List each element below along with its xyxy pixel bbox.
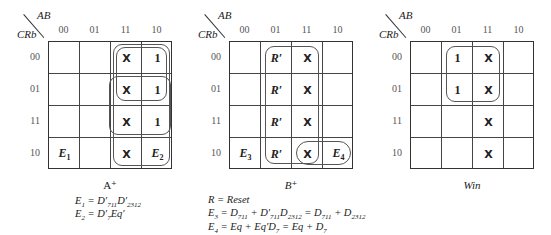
equation-r: R = Reset	[208, 194, 250, 205]
cell-r3-c1	[442, 138, 473, 170]
cell-r3-c2: X	[473, 138, 504, 170]
cell-r1-c0	[411, 74, 442, 106]
map-caption: A⁺	[48, 179, 172, 192]
col-label-10: 10	[503, 24, 534, 35]
cell-r2-c1	[442, 106, 473, 138]
row-label-01: 01	[382, 83, 402, 94]
row-label-11: 11	[382, 115, 402, 126]
cell-r3-c1	[80, 138, 111, 170]
kmap-win: AB CRb 00 01 11 10 00 01 11 10 1 X 1 X X…	[362, 0, 542, 190]
row-label-00: 00	[201, 51, 221, 62]
row-variable-label: CRb	[17, 28, 37, 40]
col-label-11: 11	[110, 24, 141, 35]
cell-r2-c0	[411, 106, 442, 138]
row-label-01: 01	[201, 83, 221, 94]
col-label-00: 00	[48, 24, 79, 35]
group-loop-middle	[109, 76, 171, 135]
kmap-a: AB CRb 00 01 11 10 00 01 11 10 X 1 X 1 X…	[0, 0, 180, 190]
cell-r1-c3	[504, 74, 535, 106]
row-label-11: 11	[201, 115, 221, 126]
row-label-11: 11	[20, 115, 40, 126]
cell-r0-c0	[49, 42, 80, 74]
cell-r0-c1	[80, 42, 111, 74]
equation-e2: E2 = D′7Eq′	[75, 208, 125, 222]
cell-r2-c2: X	[473, 106, 504, 138]
equation-e3: E3 = D711 + D′711D2312 = D711 + D2312	[208, 207, 365, 221]
equation-e1: E1 = D′711D′2312	[75, 195, 141, 209]
cell-r2-c0	[49, 106, 80, 138]
row-label-01: 01	[20, 83, 40, 94]
row-variable-label: CRb	[198, 28, 218, 40]
row-label-00: 00	[20, 51, 40, 62]
row-label-10: 10	[382, 147, 402, 158]
cell-r0-c0	[411, 42, 442, 74]
cell-r3-c0: E3	[230, 138, 261, 170]
column-variable-label: AB	[218, 9, 231, 21]
map-caption: B⁺	[229, 179, 353, 192]
cell-r1-c1	[80, 74, 111, 106]
col-label-01: 01	[79, 24, 110, 35]
cell-r2-c0	[230, 106, 261, 138]
cell-r0-c3	[504, 42, 535, 74]
cell-r3-c0	[411, 138, 442, 170]
cell-r3-c3	[504, 138, 535, 170]
col-label-00: 00	[229, 24, 260, 35]
col-label-00: 00	[410, 24, 441, 35]
kmap-grid: X 1 X 1 X 1 E1 X E2	[48, 41, 172, 169]
kmap-b: AB CRb 00 01 11 10 00 01 11 10 R′ X R′ X…	[181, 0, 361, 190]
row-variable-label: CRb	[379, 28, 399, 40]
col-label-10: 10	[141, 24, 172, 35]
col-label-01: 01	[260, 24, 291, 35]
map-caption: Win	[410, 179, 534, 191]
cell-r0-c0	[230, 42, 261, 74]
col-label-10: 10	[322, 24, 353, 35]
row-label-10: 10	[20, 147, 40, 158]
row-label-00: 00	[382, 51, 402, 62]
cell-r1-c0	[49, 74, 80, 106]
kmap-grid: R′ X R′ X R′ X E3 R′ X E4	[229, 41, 353, 169]
cell-r3-c0: E1	[49, 138, 80, 170]
cell-r2-c3	[323, 106, 354, 138]
col-label-11: 11	[472, 24, 503, 35]
kmap-grid: 1 X 1 X X X	[410, 41, 534, 169]
equation-e4: E4 = Eq + Eq′D7 = Eq + D7	[208, 221, 327, 235]
row-label-10: 10	[201, 147, 221, 158]
column-variable-label: AB	[399, 9, 412, 21]
column-variable-label: AB	[37, 9, 50, 21]
cell-r0-c3	[323, 42, 354, 74]
cell-r2-c1	[80, 106, 111, 138]
cell-r1-c0	[230, 74, 261, 106]
group-loop-horizontal	[296, 141, 351, 165]
cell-r2-c3	[504, 106, 535, 138]
group-loop-square	[446, 46, 500, 102]
col-label-11: 11	[291, 24, 322, 35]
cell-r1-c3	[323, 74, 354, 106]
col-label-01: 01	[441, 24, 472, 35]
